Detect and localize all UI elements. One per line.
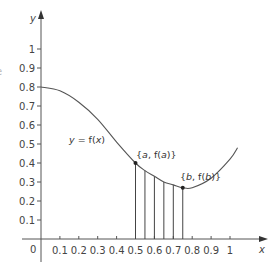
x-tick-label: 0.7 — [165, 245, 181, 256]
y-tick-label: 0.2 — [19, 196, 35, 207]
x-tick-label: 0.2 — [71, 245, 87, 256]
edge-artifact-text: e — [0, 66, 2, 77]
point-marker — [181, 186, 185, 190]
y-tick-label: 0.8 — [19, 82, 35, 93]
x-axis-arrow-icon — [259, 236, 268, 242]
y-tick-label: 0.1 — [19, 215, 35, 226]
y-tick-label: 0.6 — [19, 120, 35, 131]
point-a-label: {a, f(a)} — [136, 149, 177, 160]
origin-label: 0 — [30, 244, 36, 255]
x-axis-label: x — [258, 244, 265, 255]
x-tick-label: 0.1 — [52, 245, 68, 256]
marked-points — [134, 161, 185, 190]
axis-ticks: 0.10.20.30.40.50.60.70.80.910.10.20.30.4… — [19, 44, 233, 257]
y-tick-label: 0.4 — [19, 158, 35, 169]
x-tick-label: 0.6 — [146, 245, 162, 256]
y-tick-label: 0.7 — [19, 101, 35, 112]
y-tick-label: 1 — [29, 44, 35, 55]
y-tick-label: 0.9 — [19, 63, 35, 74]
y-axis-arrow-icon — [38, 10, 44, 19]
riemann-vertical-lines — [136, 163, 183, 239]
point-marker — [134, 161, 138, 165]
x-tick-label: 0.4 — [109, 245, 125, 256]
y-axis-label: y — [29, 13, 37, 24]
y-tick-label: 0.3 — [19, 177, 35, 188]
y-tick-label: 0.5 — [19, 139, 35, 150]
x-tick-label: 0.9 — [203, 245, 219, 256]
chart: e 0.10.20.30.40.50.60.70.80.910.10.20.30… — [0, 0, 276, 277]
point-b-label: {b, f(b)} — [180, 171, 221, 182]
x-tick-label: 0.8 — [184, 245, 200, 256]
x-tick-label: 0.3 — [90, 245, 106, 256]
x-tick-label: 0.5 — [128, 245, 144, 256]
curve-label: y = f(x) — [68, 134, 105, 145]
x-tick-label: 1 — [227, 245, 233, 256]
